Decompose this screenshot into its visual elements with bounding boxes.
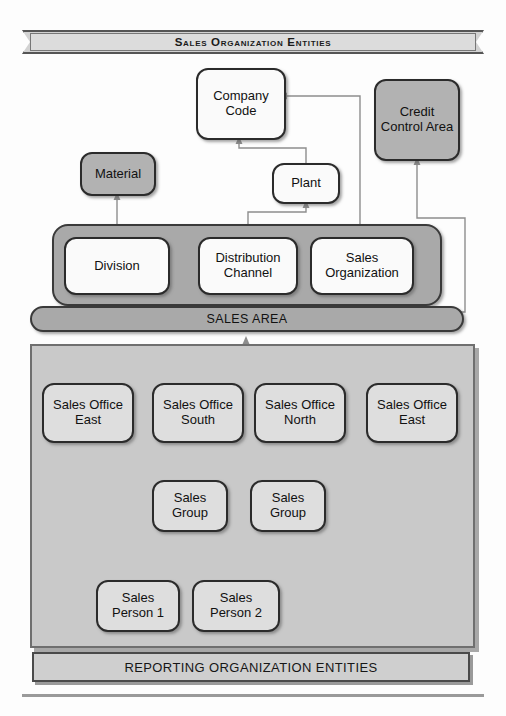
node-sales-group-2-label: Sales Group	[270, 491, 306, 520]
node-company-code[interactable]: Company Code	[196, 68, 286, 140]
node-material[interactable]: Material	[80, 152, 156, 196]
node-sales-office-east-1-label: Sales Office East	[53, 398, 123, 427]
node-sales-office-east-2[interactable]: Sales Office East	[366, 383, 458, 443]
node-material-label: Material	[95, 167, 141, 182]
node-sales-organization-label: Sales Organization	[325, 251, 399, 280]
node-plant[interactable]: Plant	[272, 163, 340, 204]
diagram-canvas: Sales Organization Entities	[0, 0, 506, 716]
node-sales-office-south-label: Sales Office South	[163, 398, 233, 427]
node-sales-person-2[interactable]: Sales Person 2	[192, 580, 280, 632]
sales-area-label: SALES AREA	[206, 312, 287, 326]
sales-area-label-band: SALES AREA	[30, 306, 464, 332]
node-division[interactable]: Division	[64, 237, 170, 295]
node-sales-group-2[interactable]: Sales Group	[250, 480, 326, 532]
node-sales-office-north[interactable]: Sales Office North	[254, 383, 346, 443]
node-sales-person-1-label: Sales Person 1	[112, 591, 164, 620]
node-sales-organization[interactable]: Sales Organization	[310, 237, 414, 295]
node-sales-group-1-label: Sales Group	[172, 491, 208, 520]
node-credit-control-area[interactable]: Credit Control Area	[374, 79, 460, 161]
node-sales-office-east-1[interactable]: Sales Office East	[42, 383, 134, 443]
node-sales-office-south[interactable]: Sales Office South	[152, 383, 244, 443]
node-sales-office-east-2-label: Sales Office East	[377, 398, 447, 427]
node-plant-label: Plant	[291, 176, 321, 191]
node-company-code-label: Company Code	[213, 89, 269, 118]
node-sales-office-north-label: Sales Office North	[265, 398, 335, 427]
baseline-rule	[22, 694, 484, 697]
node-division-label: Division	[94, 259, 140, 274]
node-sales-group-1[interactable]: Sales Group	[152, 480, 228, 532]
node-sales-person-1[interactable]: Sales Person 1	[96, 580, 180, 632]
title-banner-label: Sales Organization Entities	[22, 30, 484, 54]
footer-banner-label: REPORTING ORGANIZATION ENTITIES	[124, 660, 377, 675]
node-credit-control-area-label: Credit Control Area	[381, 105, 453, 134]
node-sales-person-2-label: Sales Person 2	[210, 591, 262, 620]
node-distribution-channel-label: Distribution Channel	[215, 251, 280, 280]
footer-banner: REPORTING ORGANIZATION ENTITIES	[32, 652, 470, 682]
node-distribution-channel[interactable]: Distribution Channel	[198, 237, 298, 295]
